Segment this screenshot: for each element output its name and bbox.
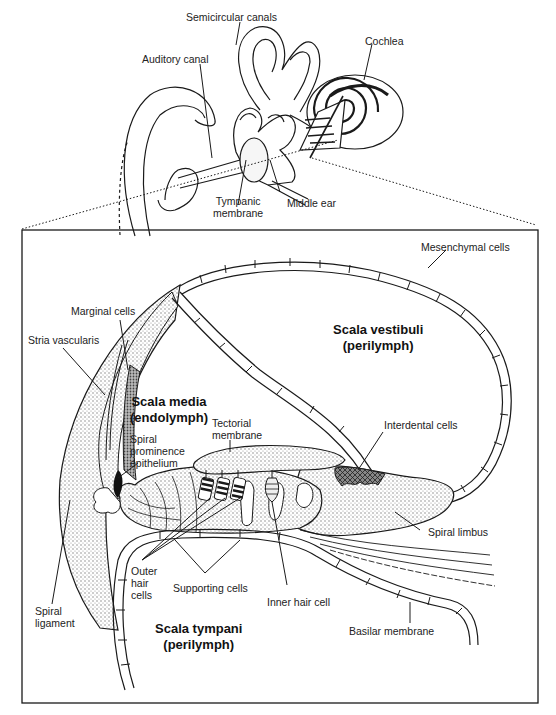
label-spiral-limbus: Spiral limbus xyxy=(428,526,488,538)
label-line: Tympanic xyxy=(213,195,263,207)
label-line: Tectorial xyxy=(212,417,262,429)
nerve-fibers xyxy=(300,530,495,586)
region-line: Scala tympani xyxy=(155,621,242,637)
label-middle-ear: Middle ear xyxy=(287,197,336,209)
label-tympanic-membrane: Tympanic membrane xyxy=(213,195,263,219)
label-spiral-ligament: Spiral ligament xyxy=(35,605,75,629)
label-line: Outer xyxy=(131,565,157,577)
label-outer-hair-cells: Outer hair cells xyxy=(131,565,157,601)
label-line: cells xyxy=(131,589,157,601)
label-auditory-canal: Auditory canal xyxy=(142,53,209,65)
region-line: (endolymph) xyxy=(130,410,208,426)
basilar-membrane-wall xyxy=(113,529,478,690)
middle-ear-ossicles xyxy=(234,108,308,205)
label-line: ligament xyxy=(35,617,75,629)
label-line: hair xyxy=(131,577,157,589)
region-scala-media: Scala media (endolymph) xyxy=(130,394,208,426)
label-mesenchymal-cells: Mesenchymal cells xyxy=(421,241,510,253)
semicircular-canals-shape xyxy=(239,27,325,140)
label-interdental-cells: Interdental cells xyxy=(384,419,458,431)
label-basilar-membrane: Basilar membrane xyxy=(349,625,434,637)
label-line: prominence xyxy=(130,445,185,457)
label-cochlea: Cochlea xyxy=(365,35,404,47)
overview-leaders xyxy=(200,22,372,205)
outer-ear xyxy=(119,87,215,236)
label-semicircular-canals: Semicircular canals xyxy=(186,11,277,23)
region-line: Scala media xyxy=(130,394,208,410)
label-line: membrane xyxy=(213,207,263,219)
label-marginal-cells: Marginal cells xyxy=(71,305,135,317)
label-line: Spiral xyxy=(35,605,75,617)
label-spiral-prominence-epithelium: Spiral prominence epithelium xyxy=(130,433,185,469)
region-scala-tympani: Scala tympani (perilymph) xyxy=(155,621,242,653)
label-stria-vascularis: Stria vascularis xyxy=(28,334,99,346)
label-inner-hair-cell: Inner hair cell xyxy=(267,596,330,608)
label-line: Spiral xyxy=(130,433,185,445)
region-line: (perilymph) xyxy=(155,637,242,653)
region-scala-vestibuli: Scala vestibuli (perilymph) xyxy=(333,322,423,354)
label-line: membrane xyxy=(212,429,262,441)
label-tectorial-membrane: Tectorial membrane xyxy=(212,417,262,441)
label-line: epithelium xyxy=(130,457,185,469)
cochlea-shape xyxy=(300,75,403,158)
label-supporting-cells: Supporting cells xyxy=(173,582,248,594)
region-line: (perilymph) xyxy=(333,338,423,354)
region-line: Scala vestibuli xyxy=(333,322,423,338)
